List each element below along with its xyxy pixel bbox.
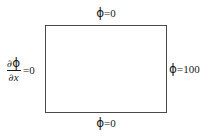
bottom-boundary-condition-label: ϕ=0 <box>0 117 210 129</box>
phi-symbol-bottom: ϕ <box>96 116 104 130</box>
left-boundary-value: 0 <box>29 65 35 76</box>
fraction-numerator: ∂ϕ <box>5 57 22 70</box>
top-boundary-condition-label: ϕ=0 <box>0 7 210 19</box>
phi-symbol-top: ϕ <box>96 6 104 20</box>
phi-symbol-right: ϕ <box>169 62 177 76</box>
variable-x: x <box>14 71 19 83</box>
right-boundary-value: 100 <box>183 63 200 75</box>
equals-sign-left: = <box>22 65 29 76</box>
top-boundary-value: 0 <box>110 7 116 19</box>
right-boundary-condition-label: ϕ=100 <box>169 63 200 75</box>
boundary-condition-figure: ϕ=0 ϕ=0 ϕ=100 ∂ϕ ∂x =0 <box>0 0 210 138</box>
bottom-boundary-value: 0 <box>110 117 116 129</box>
fraction-denominator: ∂x <box>7 70 21 83</box>
phi-symbol-left: ϕ <box>12 56 20 70</box>
domain-rectangle <box>45 25 167 113</box>
partial-derivative-fraction: ∂ϕ ∂x <box>5 57 22 83</box>
left-boundary-condition-label: ∂ϕ ∂x =0 <box>5 57 35 83</box>
